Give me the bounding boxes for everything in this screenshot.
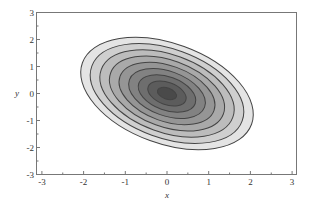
y-axis-ticks: -3-2-10123: [27, 8, 41, 180]
x-tick-label: -2: [80, 177, 88, 187]
contour-chart: -3-2-10123 -3-2-10123 x y: [0, 0, 313, 205]
y-tick-label: -3: [27, 170, 35, 180]
y-tick-label: 2: [30, 35, 35, 45]
y-tick-label: -1: [27, 116, 35, 126]
x-tick-label: 2: [248, 177, 253, 187]
x-tick-label: -3: [38, 177, 46, 187]
y-tick-label: 1: [30, 62, 35, 72]
y-tick-label: -2: [27, 143, 35, 153]
y-axis-label: y: [14, 88, 19, 98]
x-tick-label: 3: [290, 177, 295, 187]
x-tick-label: 0: [165, 177, 170, 187]
y-tick-label: 3: [30, 8, 35, 18]
x-axis-ticks: -3-2-10123: [38, 171, 295, 187]
x-tick-label: -1: [122, 177, 130, 187]
x-axis-label: x: [164, 190, 169, 200]
y-tick-label: 0: [30, 89, 35, 99]
contour-fill-group: [65, 16, 268, 172]
x-tick-label: 1: [206, 177, 211, 187]
